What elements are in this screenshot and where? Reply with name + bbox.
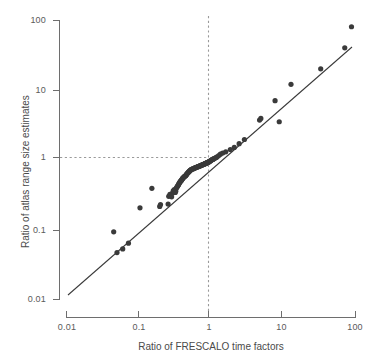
scatter-plot-figure: 100 10 1 0.1 0.01 0.01 0.1 1 10 100 Rati… [0, 0, 368, 359]
data-point-group [111, 24, 354, 255]
data-point [166, 201, 171, 206]
data-point [237, 141, 242, 146]
data-point [158, 202, 163, 207]
data-point [342, 45, 347, 50]
y-tick-label-0.01: 0.01 [18, 294, 46, 304]
fitted-regression-line [68, 47, 352, 295]
y-axis-title: Ratio of atlas range size estimates [20, 95, 31, 248]
data-point [126, 241, 131, 246]
data-point [111, 229, 116, 234]
x-axis-title: Ratio of FRESCALO time factors [66, 341, 356, 352]
data-point [349, 24, 354, 29]
plot-canvas [0, 0, 368, 359]
data-point [288, 82, 293, 87]
x-tick-label-0.1: 0.1 [125, 322, 153, 332]
y-tick-label-10: 10 [22, 85, 46, 95]
x-tick-label-1: 1 [199, 322, 219, 332]
data-point [114, 250, 119, 255]
data-point [137, 205, 142, 210]
data-point [272, 98, 277, 103]
data-point [318, 66, 323, 71]
y-tick-label-100: 100 [22, 15, 46, 25]
x-tick-label-100: 100 [341, 322, 368, 332]
data-point [258, 116, 263, 121]
data-point [242, 137, 247, 142]
data-point [277, 119, 282, 124]
x-tick-label-10: 10 [269, 322, 294, 332]
data-point [149, 186, 154, 191]
data-point [223, 149, 228, 154]
data-point [120, 246, 125, 251]
x-tick-label-0.01: 0.01 [52, 322, 82, 332]
data-point [232, 145, 237, 150]
y-axis-ticks [53, 21, 60, 300]
x-axis-ticks [67, 311, 356, 318]
